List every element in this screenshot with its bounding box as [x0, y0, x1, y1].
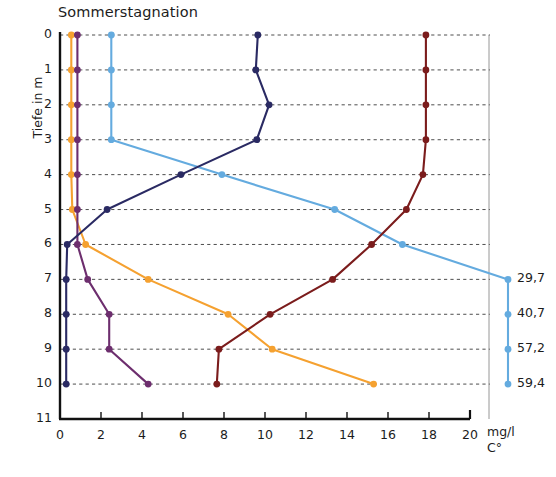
series-point-orange-series-2: [68, 101, 75, 108]
series-point-orange-series-8: [225, 311, 232, 318]
x-tick-label-18: 18: [416, 427, 442, 442]
x-tick-label-2: 2: [88, 427, 114, 442]
y-tick-label-3: 3: [26, 131, 52, 146]
x-tick-label-0: 0: [47, 427, 73, 442]
series-point-light-blue-series-5: [331, 206, 338, 213]
series-point-orange-series-4: [68, 171, 75, 178]
series-point-purple-series-6: [74, 241, 81, 248]
y-tick-label-11: 11: [26, 410, 52, 425]
series-point-navy-series-1: [252, 67, 259, 74]
series-point-orange-series-0: [68, 32, 75, 39]
x-tick-label-8: 8: [211, 427, 237, 442]
x-axis-unit-line-2: C°: [487, 440, 515, 456]
y-tick-label-0: 0: [26, 26, 52, 41]
x-tick-label-10: 10: [252, 427, 278, 442]
series-point-navy-series-2: [266, 101, 273, 108]
y-tick-label-10: 10: [26, 375, 52, 390]
series-point-navy-series-10: [63, 381, 70, 388]
offscale-label-40-7: 40,7: [517, 305, 545, 320]
series-point-purple-series-4: [74, 171, 81, 178]
series-point-dark-red-series-10: [213, 381, 220, 388]
y-tick-label-2: 2: [26, 96, 52, 111]
series-point-purple-series-1: [74, 67, 81, 74]
series-point-navy-series-6: [64, 241, 71, 248]
series-point-dark-red-series-1: [423, 67, 430, 74]
series-point-navy-series-0: [254, 32, 261, 39]
series-point-navy-series-4: [178, 171, 185, 178]
series-point-purple-series-0: [74, 32, 81, 39]
y-tick-label-8: 8: [26, 305, 52, 320]
series-point-purple-series-9: [106, 346, 113, 353]
series-point-dark-red-series-4: [420, 171, 427, 178]
series-point-orange-series-9: [269, 346, 276, 353]
series-point-purple-series-2: [74, 101, 81, 108]
series-point-dark-red-series-7: [329, 276, 336, 283]
series-point-orange-series-10: [370, 381, 377, 388]
series-point-light-blue-series-6: [399, 241, 406, 248]
series-point-purple-series-5: [74, 206, 81, 213]
series-point-purple-series-7: [84, 276, 91, 283]
series-point-orange-series-6: [82, 241, 89, 248]
series-point-light-blue-series-3: [108, 136, 115, 143]
chart-root: Sommerstagnation Tiefe in m 012345678910…: [0, 0, 556, 477]
y-tick-label-7: 7: [26, 270, 52, 285]
series-point-light-blue-series-7: [505, 276, 512, 283]
series-point-light-blue-series-10: [505, 381, 512, 388]
series-point-dark-red-series-3: [423, 136, 430, 143]
series-point-navy-series-7: [63, 276, 70, 283]
series-point-orange-series-1: [68, 67, 75, 74]
offscale-label-29-7: 29,7: [517, 270, 545, 285]
y-tick-label-9: 9: [26, 340, 52, 355]
series-point-light-blue-series-1: [108, 67, 115, 74]
chart-plot-area: [0, 0, 556, 477]
series-point-navy-series-5: [104, 206, 111, 213]
series-point-orange-series-7: [145, 276, 152, 283]
series-point-dark-red-series-5: [403, 206, 410, 213]
y-tick-label-1: 1: [26, 61, 52, 76]
series-point-navy-series-8: [63, 311, 70, 318]
series-line-navy-series: [66, 35, 269, 384]
series-point-orange-series-3: [68, 136, 75, 143]
series-point-dark-red-series-8: [267, 311, 274, 318]
x-axis-unit-line-1: mg/l: [487, 424, 515, 440]
x-tick-label-16: 16: [375, 427, 401, 442]
series-point-dark-red-series-0: [423, 32, 430, 39]
series-point-light-blue-series-8: [505, 311, 512, 318]
series-point-dark-red-series-2: [423, 101, 430, 108]
offscale-label-57-2: 57,2: [517, 340, 545, 355]
series-point-dark-red-series-6: [368, 241, 375, 248]
x-tick-label-4: 4: [129, 427, 155, 442]
series-point-light-blue-series-4: [219, 171, 226, 178]
y-tick-label-5: 5: [26, 201, 52, 216]
x-tick-label-14: 14: [334, 427, 360, 442]
offscale-label-59-4: 59,4: [517, 375, 545, 390]
y-tick-label-6: 6: [26, 235, 52, 250]
series-point-purple-series-3: [74, 136, 81, 143]
x-tick-label-20: 20: [457, 427, 483, 442]
y-tick-label-4: 4: [26, 166, 52, 181]
series-point-light-blue-series-0: [108, 32, 115, 39]
series-point-purple-series-10: [145, 381, 152, 388]
x-axis-unit-label: mg/l C°: [487, 424, 515, 456]
x-tick-label-6: 6: [170, 427, 196, 442]
x-tick-label-12: 12: [293, 427, 319, 442]
series-point-purple-series-8: [106, 311, 113, 318]
series-point-dark-red-series-9: [216, 346, 223, 353]
series-point-light-blue-series-2: [108, 101, 115, 108]
series-point-navy-series-9: [63, 346, 70, 353]
series-point-light-blue-series-9: [505, 346, 512, 353]
series-point-navy-series-3: [253, 136, 260, 143]
